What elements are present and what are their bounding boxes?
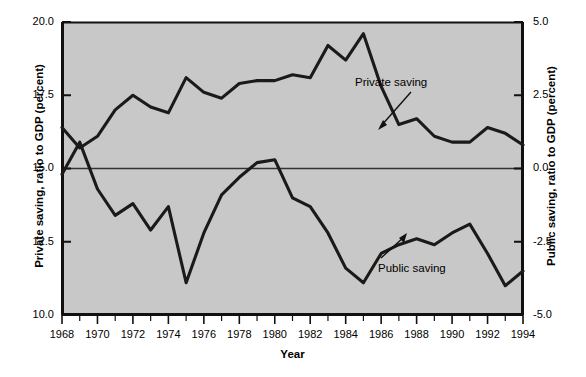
x-axis-title: Year [62, 348, 523, 360]
y-axis-title-right: Public saving, ratio to GDP (percent) [545, 46, 557, 286]
ytick-left-4: 10.0 [8, 309, 54, 320]
annotation-private-saving: Private saving [355, 76, 427, 88]
x-ticks [62, 315, 523, 324]
xtick-label-1994: 1994 [501, 329, 545, 340]
ytick-left-3: 12.5 [8, 236, 54, 247]
ytick-right-0: 5.0 [533, 16, 548, 27]
annotation-public-saving: Public saving [378, 262, 446, 274]
saving-rates-chart: 20.0 17.5 15.0 12.5 10.0 5.0 2.5 0.0 -2.… [0, 0, 586, 377]
y-axis-title-left: Private saving, ratio to GDP (percent) [33, 46, 45, 286]
ytick-left-2: 15.0 [8, 162, 54, 173]
plot-area [62, 22, 523, 315]
ytick-left-0: 20.0 [8, 16, 54, 27]
ytick-right-4: -5.0 [533, 309, 552, 320]
ytick-left-1: 17.5 [8, 89, 54, 100]
